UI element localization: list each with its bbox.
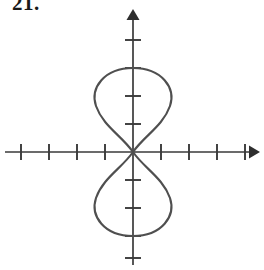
figure-page: 21. xyxy=(0,0,264,270)
y-axis-arrow-icon xyxy=(127,9,140,20)
coordinate-plane-figure xyxy=(0,0,264,270)
y-axis-group xyxy=(125,9,141,265)
x-axis-arrow-icon xyxy=(249,146,260,159)
